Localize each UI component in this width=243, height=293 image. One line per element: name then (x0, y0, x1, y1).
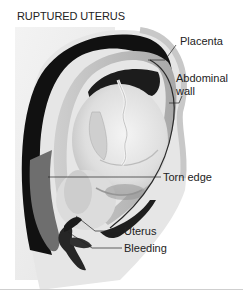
label-abdominal-wall-line2: wall (176, 85, 228, 98)
label-placenta: Placenta (180, 35, 223, 48)
label-uterus: Uterus (124, 225, 156, 238)
label-abdominal-wall-line1: Abdominal (176, 72, 228, 85)
label-bleeding: Bleeding (124, 242, 167, 255)
label-abdominal-wall: Abdominal wall (176, 72, 228, 98)
divider (0, 289, 243, 290)
label-torn-edge: Torn edge (163, 171, 212, 184)
